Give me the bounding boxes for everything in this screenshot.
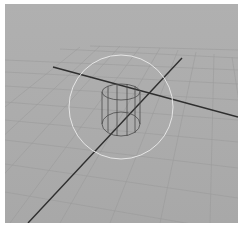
3d-viewport[interactable] bbox=[5, 4, 238, 223]
viewport-canvas[interactable] bbox=[5, 4, 238, 223]
viewport-background bbox=[5, 4, 238, 223]
